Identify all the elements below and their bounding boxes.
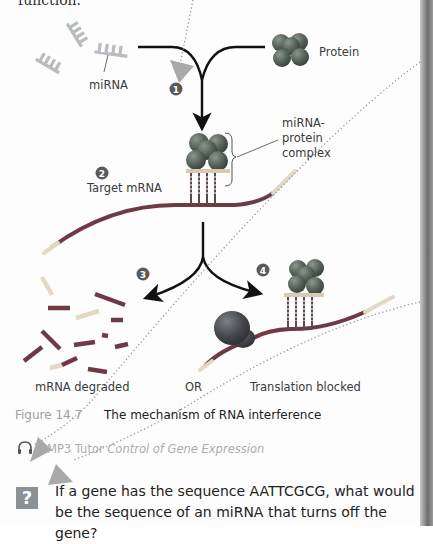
book-spine-shadow [420,0,433,526]
label-or: OR [185,380,202,394]
svg-text:4: 4 [260,266,266,276]
ribosome-icon [214,311,255,348]
label-mrna-degraded: mRNA degraded [35,380,129,394]
headphones-icon[interactable] [16,440,34,456]
mp3-tutor-title: Control of Gene Expression [107,442,264,456]
mirna-protein-complex-icon [186,133,228,171]
mirna-molecules [37,21,127,72]
figure-caption: The mechanism of RNA interference [104,408,321,422]
svg-text:3: 3 [140,270,146,280]
label-target-mrna: Target mRNA [87,181,162,195]
label-mirna: miRNA [89,78,128,92]
blocking-complex-icon [288,259,324,295]
arrow-marker-1 [170,60,194,83]
figure-number: Figure 14.7 [15,408,82,422]
review-question: If a gene has the sequence AATTCGCG, wha… [55,481,415,544]
protein-icon [272,33,309,67]
svg-text:2: 2 [99,169,105,179]
label-protein: Protein [319,45,359,59]
question-mark-icon: ? [16,487,38,509]
label-complex: miRNA- protein complex [282,116,331,161]
mp3-tutor-link[interactable]: MP3 Tutor Control of Gene Expression [47,442,264,456]
svg-text:1: 1 [173,85,179,95]
degraded-mrna-fragments [24,277,128,372]
label-translation-blocked: Translation blocked [250,380,361,394]
